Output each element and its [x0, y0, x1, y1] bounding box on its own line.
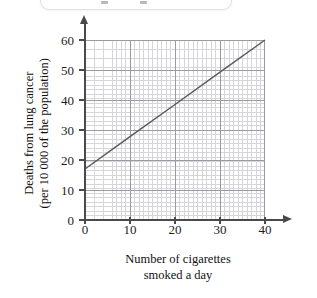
x-axis-title-line1: Number of cigarettes	[78, 252, 278, 268]
x-axis-line	[84, 219, 284, 221]
x-tick-label-10: 10	[115, 223, 145, 236]
y-axis-title: Deaths from lung cancer (per 10 000 of t…	[22, 45, 53, 221]
right-arrow-icon	[283, 215, 292, 223]
y-tick-30	[79, 129, 86, 130]
up-arrow-icon	[80, 15, 88, 24]
y-tick-40	[79, 99, 86, 100]
card-mark-left	[101, 1, 108, 4]
y-tick-50	[79, 69, 86, 70]
plot-area	[85, 40, 265, 220]
x-tick-label-40: 40	[250, 223, 280, 236]
chart-figure: 0102030405060 010203040 Deaths from lung…	[0, 0, 317, 298]
y-tick-10	[79, 189, 86, 190]
y-tick-20	[79, 159, 86, 160]
x-tick-label-30: 30	[205, 223, 235, 236]
x-tick-label-20: 20	[160, 223, 190, 236]
y-tick-60	[79, 39, 86, 40]
y-axis-title-line2: (per 10 000 of the population)	[37, 45, 52, 221]
series-path-line-of-best-fit	[85, 40, 265, 169]
x-tick-label-0: 0	[70, 223, 100, 236]
data-line-series	[85, 40, 265, 220]
x-axis-title: Number of cigarettes smoked a day	[78, 252, 278, 283]
top-cut-off-card	[40, 0, 232, 10]
card-mark-right	[140, 1, 147, 4]
x-axis-title-line2: smoked a day	[78, 268, 278, 284]
y-axis-title-line1: Deaths from lung cancer	[22, 45, 37, 221]
